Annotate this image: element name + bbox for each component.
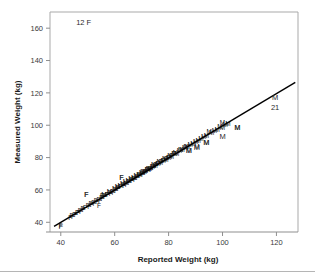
scatter-plot-figure: 406080100120140160 406080100120 FFFFFFFF… — [0, 0, 315, 275]
outlier-label-m-right: M — [272, 93, 278, 102]
outlier-label-f-2: F — [119, 173, 124, 182]
y-axis-title: Measured Weight (kg) — [13, 80, 22, 163]
x-tick-label: 120 — [270, 238, 283, 247]
outlier-label-m-3: M — [203, 138, 209, 147]
y-tick-label: 160 — [30, 24, 43, 33]
count-21-right: 21 — [271, 103, 279, 112]
y-tick-label: 140 — [30, 56, 43, 65]
outlier-label-m-4: M — [194, 143, 200, 152]
outlier-label-f-bottom: F — [58, 222, 63, 231]
chart-canvas: 406080100120140160 406080100120 FFFFFFFF… — [0, 0, 315, 275]
outlier-label-m-2: M — [219, 132, 225, 141]
outlier-label-m-1: M — [234, 123, 240, 132]
y-tick-label: 40 — [35, 218, 43, 227]
y-tick-label: 100 — [30, 121, 43, 130]
y-tick-label: 60 — [35, 186, 43, 195]
y-tick-label: 80 — [35, 153, 43, 162]
x-tick-label: 100 — [216, 238, 229, 247]
y-tick-label: 120 — [30, 89, 43, 98]
bottom-divider — [0, 271, 315, 272]
x-tick-label: 60 — [111, 238, 119, 247]
outlier-label-f-1: F — [84, 190, 89, 199]
x-axis-title: Reported Weight (kg) — [138, 255, 219, 264]
x-tick-label: 80 — [164, 238, 172, 247]
chart-background — [0, 0, 315, 275]
outlier-label-m-5: M — [186, 146, 192, 155]
x-tick-label: 40 — [57, 238, 65, 247]
count-f-top-left: 12 F — [76, 18, 91, 27]
